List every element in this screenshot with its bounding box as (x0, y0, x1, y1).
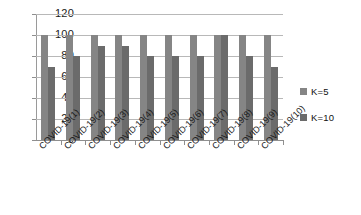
bar-K10-8 (221, 35, 228, 140)
legend-item: K=10 (300, 112, 358, 122)
legend-swatch-icon (300, 114, 307, 121)
chart-legend: K=5K=10 (300, 86, 358, 138)
legend-label: K=5 (311, 86, 329, 97)
x-axis-labels: COVID-19(1)COVID-19(2)COVID-19(3)COVID-1… (36, 142, 283, 212)
bar-K5-1 (41, 35, 48, 140)
x-tick-mark (283, 141, 284, 145)
legend-item: K=5 (300, 86, 358, 96)
legend-label: K=10 (311, 112, 334, 123)
bar-group (36, 14, 61, 140)
bar-chart: 120100806040200 COVID-19(1)COVID-19(2)CO… (0, 0, 361, 215)
legend-swatch-icon (300, 88, 307, 95)
